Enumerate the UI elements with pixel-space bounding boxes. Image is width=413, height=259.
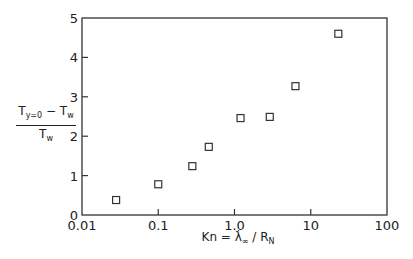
- x-tick-label: 0.1: [148, 218, 169, 233]
- x-axis-label: Kn = λ̇∞ / RN: [198, 230, 278, 246]
- data-point-square: [113, 197, 120, 204]
- y-tick-label: 3: [70, 90, 78, 105]
- data-point-square: [266, 113, 273, 120]
- y-label-numerator: Ty=0 − Tw: [16, 104, 76, 126]
- y-tick-label: 4: [70, 50, 78, 65]
- data-point-square: [205, 143, 212, 150]
- x-tick-label: 100: [375, 218, 400, 233]
- y-tick-label: 0: [70, 208, 78, 223]
- data-point-square: [335, 30, 342, 37]
- y-axis-label: Ty=0 − Tw Tw: [16, 104, 76, 146]
- data-point-square: [155, 181, 162, 188]
- axis-ticks: [82, 57, 311, 215]
- data-point-square: [237, 115, 244, 122]
- data-points: [113, 30, 342, 203]
- data-point-square: [292, 83, 299, 90]
- y-tick-label: 5: [70, 11, 78, 26]
- y-tick-label: 1: [70, 169, 78, 184]
- x-tick-label: 10: [302, 218, 319, 233]
- y-label-denominator: Tw: [16, 126, 76, 146]
- data-point-square: [189, 163, 196, 170]
- plot-frame: [82, 18, 387, 215]
